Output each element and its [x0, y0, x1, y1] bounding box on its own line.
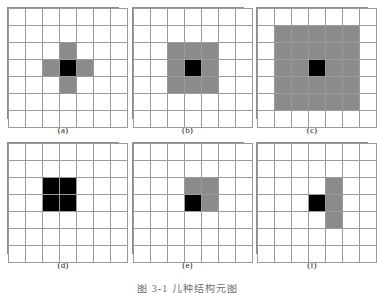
grid-row	[258, 77, 377, 94]
grid-cell	[218, 77, 235, 94]
grid-row	[9, 111, 128, 128]
grid-cell	[218, 60, 235, 77]
grid-cell	[201, 229, 218, 246]
grid-cell	[275, 111, 292, 128]
grid-cell	[167, 111, 184, 128]
grid-cell	[258, 229, 275, 246]
cell-grid	[133, 8, 253, 128]
grid-cell	[167, 178, 184, 195]
grid-cell	[94, 229, 111, 246]
grid-cell	[111, 229, 128, 246]
grid-cell	[26, 111, 43, 128]
grid-cell	[275, 212, 292, 229]
grid-row	[9, 212, 128, 229]
grid-cell	[201, 246, 218, 263]
grid-cell	[218, 229, 235, 246]
grid-cell	[218, 195, 235, 212]
grid-cell	[111, 195, 128, 212]
grid-cell	[360, 60, 377, 77]
grid-cell	[150, 9, 167, 26]
grid-cell	[150, 229, 167, 246]
panel-c: (c)	[255, 7, 369, 136]
figure-caption: 图 3-1 几种结构元图	[0, 284, 375, 293]
grid-cell	[360, 246, 377, 263]
grid-row	[258, 212, 377, 229]
grid-cell	[111, 94, 128, 111]
grid-cell	[292, 246, 309, 263]
grid-cell	[360, 144, 377, 161]
grid-cell	[201, 94, 218, 111]
grid-cell	[309, 229, 326, 246]
grid-cell	[292, 26, 309, 43]
grid-cell	[26, 161, 43, 178]
grid-cell	[43, 178, 60, 195]
grid-cell	[258, 195, 275, 212]
grid-row	[133, 111, 252, 128]
panel-row-top: (a) (b) (c)	[0, 0, 375, 136]
grid-cell	[150, 43, 167, 60]
grid-cell	[94, 246, 111, 263]
grid-cell	[26, 94, 43, 111]
grid-cell	[94, 43, 111, 60]
grid-cell	[275, 229, 292, 246]
panel-a: (a)	[6, 7, 120, 136]
grid-cell	[218, 26, 235, 43]
grid-cell	[77, 77, 94, 94]
grid-cell	[133, 144, 150, 161]
grid-cell	[150, 246, 167, 263]
grid-cell	[235, 246, 252, 263]
grid-cell	[94, 94, 111, 111]
grid-cell	[167, 195, 184, 212]
grid-cell	[9, 77, 26, 94]
grid-cell	[292, 9, 309, 26]
grid-cell	[218, 161, 235, 178]
figure-caption-text: 图 3-1 几种结构元图	[137, 284, 237, 293]
grid-cell	[235, 111, 252, 128]
grid-cell	[326, 212, 343, 229]
grid-cell	[133, 229, 150, 246]
grid-row	[9, 178, 128, 195]
grid-cell	[133, 77, 150, 94]
grid-cell	[77, 178, 94, 195]
grid-cell	[292, 161, 309, 178]
grid-cell	[309, 60, 326, 77]
grid-cell	[111, 60, 128, 77]
grid-cell	[235, 60, 252, 77]
grid-cell	[292, 94, 309, 111]
grid-cell	[133, 195, 150, 212]
grid-row	[9, 94, 128, 111]
grid-row	[133, 60, 252, 77]
grid-cell	[60, 26, 77, 43]
grid-cell	[343, 60, 360, 77]
grid-row	[133, 43, 252, 60]
grid-cell	[309, 94, 326, 111]
grid-cell	[201, 9, 218, 26]
grid-row	[9, 161, 128, 178]
grid-cell	[77, 9, 94, 26]
grid-row	[258, 9, 377, 26]
grid-cell	[26, 178, 43, 195]
grid-cell	[235, 212, 252, 229]
grid-cell	[77, 246, 94, 263]
panel-f: (f)	[255, 142, 369, 271]
grid-row	[9, 26, 128, 43]
grid-cell	[133, 111, 150, 128]
grid-cell	[201, 195, 218, 212]
grid-cell	[150, 178, 167, 195]
grid-cell	[258, 77, 275, 94]
grid-cell	[150, 94, 167, 111]
grid-cell	[43, 26, 60, 43]
grid-cell	[184, 94, 201, 111]
grid-cell	[60, 195, 77, 212]
grid-cell	[77, 111, 94, 128]
grid-cell	[43, 94, 60, 111]
grid-cell	[43, 229, 60, 246]
grid-cell	[360, 195, 377, 212]
grid-cell	[111, 26, 128, 43]
grid-row	[9, 195, 128, 212]
grid-row	[258, 195, 377, 212]
grid-cell	[133, 246, 150, 263]
grid-cell	[218, 94, 235, 111]
grid-cell	[77, 26, 94, 43]
grid-cell	[309, 111, 326, 128]
